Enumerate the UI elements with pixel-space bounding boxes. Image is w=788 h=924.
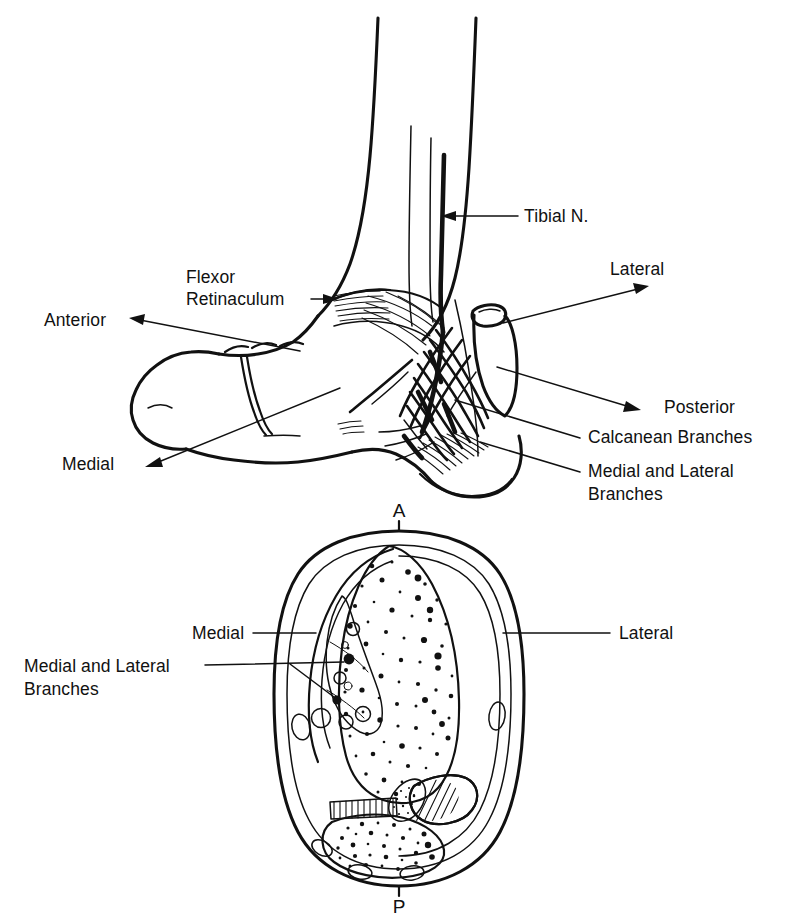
- upper-panel-drawing: [129, 18, 649, 497]
- vessel-lumen: [356, 707, 371, 722]
- label-anterior: Anterior: [44, 310, 106, 330]
- tibial-nerve-trunk: [441, 155, 444, 332]
- label-medial-cross-section: Medial: [192, 623, 244, 643]
- retinaculum-upper-edge: [326, 290, 444, 310]
- label-tibial-nerve: Tibial N.: [524, 206, 588, 226]
- label-medial-lateral-branches-cs-line1: Medial and Lateral: [24, 656, 170, 676]
- label-medial-upper: Medial: [62, 454, 114, 474]
- label-lateral-cross-section: Lateral: [619, 623, 673, 643]
- lower-panel-drawing: [205, 521, 610, 896]
- retinaculum-lower-edge: [334, 322, 444, 353]
- superficial-vein: [309, 836, 335, 859]
- leader-medial-lateral-branches-upper: [480, 442, 580, 472]
- label-flexor-retinaculum-line1: Flexor: [186, 267, 235, 287]
- leader-lateral-upper: [503, 283, 649, 323]
- leg-anterior-contour: [318, 18, 378, 316]
- leader-calcanean-branches: [455, 400, 580, 438]
- label-medial-lateral-branches-cs-line2: Branches: [24, 679, 99, 699]
- calcaneal-hatching: [338, 421, 364, 434]
- label-medial-lateral-branches-line1: Medial and Lateral: [588, 461, 734, 481]
- label-calcanean-branches: Calcanean Branches: [588, 427, 752, 447]
- label-anterior-marker: A: [393, 500, 406, 521]
- figure-page: Tibial N. Lateral Flexor Retinaculum Ant…: [0, 0, 788, 924]
- lateral-malleolus-stump: [472, 305, 506, 326]
- heel-pad-stipple: [336, 822, 435, 871]
- anatomical-figure: Tibial N. Lateral Flexor Retinaculum Ant…: [0, 0, 788, 924]
- achilles-tendon-edge-1: [409, 126, 412, 326]
- foot-dorsal-ridge-base: [264, 435, 300, 436]
- leader-tibial-nerve: [441, 211, 518, 221]
- sole-contour: [186, 449, 352, 463]
- foot-dorsal-ridge-2: [247, 357, 272, 434]
- vessel-lumen: [347, 623, 360, 636]
- toe-nail-line: [148, 405, 172, 408]
- cross-section-skin-outline: [274, 531, 524, 886]
- medial-branch-dot: [344, 654, 355, 665]
- lower-panel-labels: A P Medial Lateral Medial and Lateral Br…: [24, 500, 673, 917]
- tibial-nerve-branch-plexus: [350, 328, 488, 460]
- toes-contour: [131, 352, 219, 450]
- label-posterior: Posterior: [664, 397, 735, 417]
- leader-posterior: [497, 367, 641, 412]
- label-lateral-upper: Lateral: [610, 259, 664, 279]
- vessel-lumen: [312, 709, 331, 728]
- leader-medial-upper: [145, 388, 340, 467]
- label-flexor-retinaculum-line2: Retinaculum: [186, 289, 284, 309]
- label-posterior-marker: P: [393, 896, 406, 917]
- superficial-vein: [487, 701, 507, 731]
- foot-dorsum-contour: [219, 316, 318, 356]
- label-medial-lateral-branches-line2: Branches: [588, 484, 663, 504]
- neurovascular-compartment: [326, 596, 382, 734]
- malleolus-stump-inner-rim: [479, 309, 500, 312]
- achilles-tendon-edge-2: [430, 138, 433, 322]
- leader-anterior: [129, 314, 300, 351]
- vessel-lumen: [344, 682, 352, 690]
